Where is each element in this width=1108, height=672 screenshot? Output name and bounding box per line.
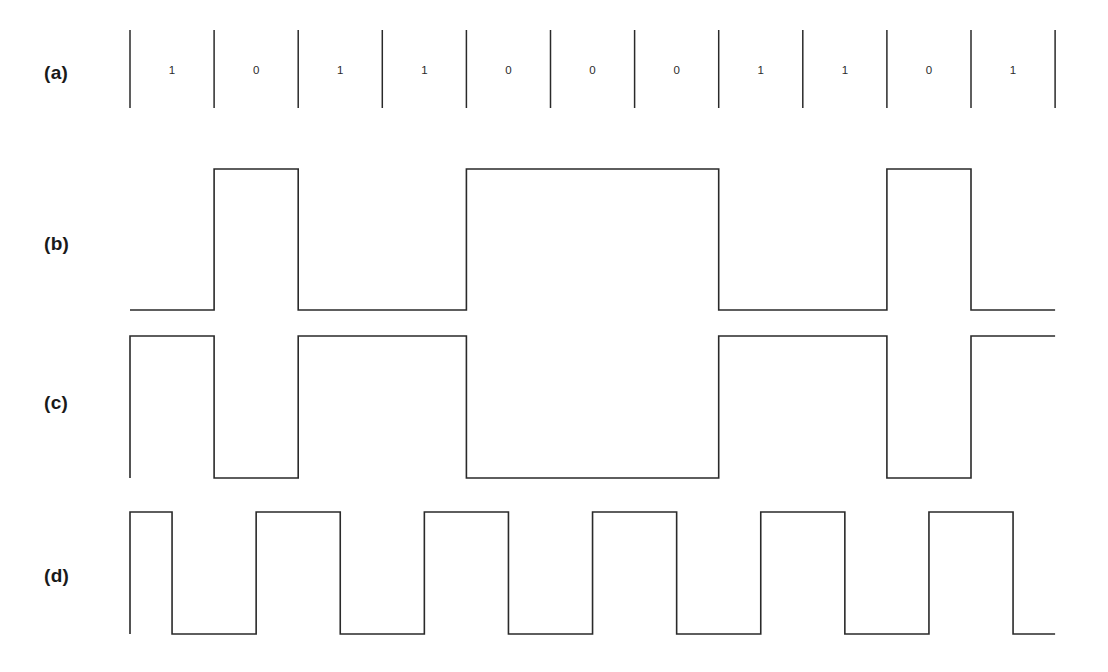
figure-canvas: (a) (b) (c) (d) 10110001101 [0,0,1108,672]
waveform-d-path [130,512,1055,634]
waveform-d-svg [0,0,1108,672]
